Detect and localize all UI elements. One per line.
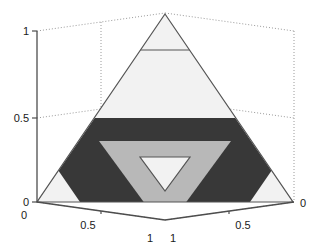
ticklabel-z-mid: 0.5 (14, 112, 29, 124)
ticklabel-z-top: 1 (23, 25, 29, 37)
ticklabel-right-zero: 0 (300, 197, 306, 209)
ticklabel-left-half: 0.5 (80, 219, 95, 231)
ticklabel-origin-x: 0 (21, 209, 27, 221)
ticklabel-left-one: 1 (147, 232, 153, 244)
grid-line-back-top-right (165, 13, 294, 31)
plot-root: 1 0.5 0 0 0.5 1 1 0.5 0 (0, 0, 322, 247)
simplex-surface (37, 14, 293, 238)
ticklabel-right-half: 0.5 (235, 219, 250, 231)
ticklabel-z-bottom: 0 (23, 196, 29, 208)
figure-canvas: 1 0.5 0 0 0.5 1 1 0.5 0 (0, 0, 322, 247)
ticklabel-right-one: 1 (170, 232, 176, 244)
